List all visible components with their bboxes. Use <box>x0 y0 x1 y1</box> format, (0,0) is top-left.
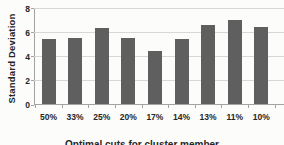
y-tick-label: 8 <box>16 4 30 14</box>
x-tick-mark <box>195 105 196 108</box>
bar-50% <box>42 39 56 104</box>
x-tick-label: 25% <box>88 112 116 122</box>
x-tick-mark <box>35 105 36 108</box>
y-tick-mark <box>31 8 34 9</box>
x-tick-mark <box>142 105 143 108</box>
y-tick-label: 6 <box>16 28 30 38</box>
x-tick-mark <box>221 105 222 108</box>
x-tick-mark <box>275 105 276 108</box>
x-tick-label: 17% <box>141 112 169 122</box>
bar-17% <box>148 51 162 104</box>
x-tick-mark <box>62 105 63 108</box>
y-tick-mark <box>31 32 34 33</box>
y-tick-mark <box>31 105 34 106</box>
bar-10% <box>254 27 268 104</box>
x-tick-mark <box>115 105 116 108</box>
x-tick-mark <box>88 105 89 108</box>
y-tick-label: 4 <box>16 52 30 62</box>
bar-13% <box>201 25 215 104</box>
y-axis-line <box>34 9 35 105</box>
y-tick-label: 2 <box>16 76 30 86</box>
bar-33% <box>68 38 82 104</box>
bar-11% <box>228 20 242 104</box>
x-tick-mark <box>168 105 169 108</box>
bar-25% <box>95 28 109 104</box>
x-tick-label: 10% <box>247 112 275 122</box>
bar-20% <box>121 38 135 104</box>
bar-14% <box>175 39 189 104</box>
y-gridline <box>34 32 284 33</box>
plot-area <box>34 9 284 105</box>
x-tick-label: 11% <box>221 112 249 122</box>
x-tick-label: 20% <box>114 112 142 122</box>
x-tick-label: 14% <box>168 112 196 122</box>
bar-chart: Standard Deviation Optimal cuts for clus… <box>0 0 284 145</box>
y-tick-mark <box>31 56 34 57</box>
x-tick-label: 33% <box>61 112 89 122</box>
x-axis-line <box>34 104 284 105</box>
y-axis-title: Standard Deviation <box>6 9 17 109</box>
y-gridline <box>34 8 284 9</box>
x-tick-label: 13% <box>194 112 222 122</box>
x-tick-mark <box>248 105 249 108</box>
x-tick-label: 50% <box>35 112 63 122</box>
y-tick-mark <box>31 80 34 81</box>
y-tick-label: 0 <box>16 100 30 110</box>
x-axis-title: Optimal cuts for cluster member <box>0 139 284 145</box>
